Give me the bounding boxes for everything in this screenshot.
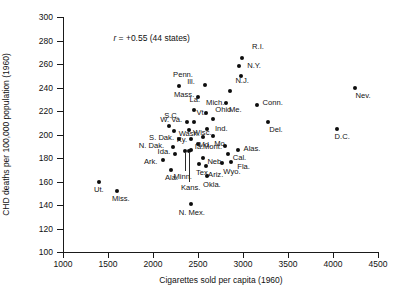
y-tick-label: 200 <box>39 130 53 139</box>
data-point-label: Vt. <box>197 109 206 117</box>
scatter-plot-figure: CHD deaths per 100,000 population (1960)… <box>0 0 396 297</box>
data-point-label: N.J. <box>235 77 249 85</box>
data-point <box>161 158 165 162</box>
data-point-label: Del. <box>269 126 283 134</box>
x-axis-line <box>63 252 379 253</box>
y-tick-label: 100 <box>39 248 53 257</box>
y-tick: 280 <box>57 41 63 42</box>
data-point <box>205 174 209 178</box>
data-point <box>169 168 173 172</box>
y-tick: 220 <box>57 111 63 112</box>
data-point-label: D.C. <box>335 133 350 141</box>
data-point-label: N.Y. <box>247 62 261 70</box>
y-tick-label: 260 <box>39 60 53 69</box>
data-point <box>266 120 270 124</box>
y-axis-label: CHD deaths per 100,000 population (1960) <box>0 17 12 252</box>
data-point-label: Fla. <box>237 163 250 171</box>
data-point <box>211 134 215 138</box>
x-tick: 2000 <box>153 252 154 258</box>
data-point-label: La. <box>190 96 201 104</box>
data-point <box>228 89 232 93</box>
x-tick: 1500 <box>108 252 109 258</box>
x-tick-label: 4500 <box>369 260 388 269</box>
x-tick-label: 2000 <box>144 260 163 269</box>
data-point-label: Miss. <box>112 195 130 203</box>
data-point <box>255 103 259 107</box>
x-tick: 1000 <box>63 252 64 258</box>
y-tick: 140 <box>57 205 63 206</box>
x-tick-label: 1000 <box>54 260 73 269</box>
y-tick: 300 <box>57 17 63 18</box>
x-axis-label: Cigarettes sold per capita (1960) <box>63 275 379 285</box>
data-point-label: R.I. <box>252 43 264 51</box>
data-point <box>226 152 230 156</box>
data-point <box>115 189 119 193</box>
data-point <box>201 156 205 160</box>
data-point <box>173 152 177 156</box>
data-point <box>192 108 196 112</box>
x-tick-label: 3500 <box>279 260 298 269</box>
data-point <box>187 128 191 132</box>
data-point <box>203 83 207 87</box>
data-point-label: Alas. <box>244 145 261 153</box>
data-point-label: Ala. <box>165 174 178 182</box>
data-point <box>197 162 201 166</box>
data-point <box>353 86 357 90</box>
data-point-label: Ark. <box>144 158 158 166</box>
data-point <box>97 180 101 184</box>
data-point <box>167 124 171 128</box>
data-point <box>201 135 205 139</box>
y-tick: 160 <box>57 182 63 183</box>
label-leader-line <box>185 153 186 171</box>
data-point <box>189 202 193 206</box>
y-tick-label: 280 <box>39 36 53 45</box>
x-tick: 2500 <box>198 252 199 258</box>
correlation-value-text: = +0.55 (44 states) <box>116 33 190 43</box>
y-tick: 180 <box>57 158 63 159</box>
data-point <box>237 64 241 68</box>
y-tick-label: 240 <box>39 83 53 92</box>
data-point-label: Kans. <box>181 184 200 192</box>
data-point <box>224 101 228 105</box>
data-point <box>192 120 196 124</box>
data-point-label: Ohio <box>215 106 231 114</box>
data-point <box>335 127 339 131</box>
data-point <box>229 160 233 164</box>
data-point <box>236 148 240 152</box>
y-tick: 120 <box>57 229 63 230</box>
data-point-label: S.C. <box>164 112 179 120</box>
data-point <box>211 117 215 121</box>
data-point-label: Ia. <box>195 143 203 151</box>
y-tick: 200 <box>57 135 63 136</box>
data-point <box>171 145 175 149</box>
data-point-label: Nev. <box>356 92 371 100</box>
y-tick-label: 160 <box>39 177 53 186</box>
y-tick-label: 300 <box>39 13 53 22</box>
x-tick-label: 3000 <box>234 260 253 269</box>
x-tick-label: 1500 <box>99 260 118 269</box>
data-point <box>240 56 244 60</box>
y-tick-label: 220 <box>39 107 53 116</box>
data-point-label: Okla. <box>203 181 221 189</box>
data-point-label: Mont. <box>203 143 222 151</box>
x-tick-label: 2500 <box>189 260 208 269</box>
x-tick: 3500 <box>288 252 289 258</box>
data-point <box>220 161 224 165</box>
data-point <box>189 137 193 141</box>
data-point <box>177 84 181 88</box>
y-tick-label: 180 <box>39 154 53 163</box>
data-point-label: Ind. <box>215 125 228 133</box>
data-point-label: Ill. <box>187 78 195 86</box>
data-point-label: Ariz. <box>208 171 223 179</box>
data-point-label: N. Mex. <box>179 209 205 217</box>
y-tick-label: 140 <box>39 201 53 210</box>
y-tick: 240 <box>57 88 63 89</box>
data-point-label: Ida. <box>158 148 171 156</box>
label-leader-line <box>189 153 190 182</box>
x-tick: 4000 <box>333 252 334 258</box>
x-tick-label: 4000 <box>324 260 343 269</box>
data-point <box>185 120 189 124</box>
data-point-label: Ut. <box>94 186 104 194</box>
y-tick-label: 120 <box>39 224 53 233</box>
plot-area: 100120140160180200220240260280300 100015… <box>63 17 378 252</box>
